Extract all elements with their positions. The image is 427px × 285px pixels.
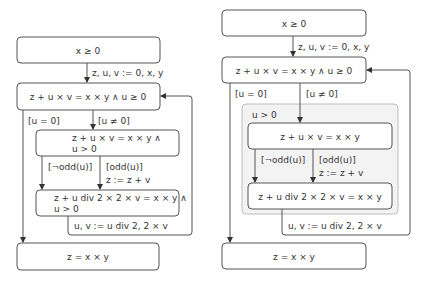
left-body-line2: u > 0	[72, 144, 97, 154]
right-diagram: x ≥ 0 z, u, v := 0, x, y z + u × v = x ×…	[222, 10, 410, 269]
right-odd-assign: z := z + v	[319, 168, 364, 178]
right-guard-exit: [u = 0]	[235, 89, 267, 99]
left-start-text: x ≥ 0	[76, 46, 101, 56]
right-body-text: z + u × v = x × y	[280, 132, 360, 142]
flowcharts: x ≥ 0 z, u, v := 0, x, y z + u × v = x ×…	[0, 0, 427, 285]
right-guard-odd: [odd(u)]	[319, 155, 356, 165]
left-init-label: z, u, v := 0, x, y	[92, 68, 164, 78]
left-guard-even: [¬odd(u)]	[48, 162, 92, 172]
left-after-line1: z + u div 2 × 2 × v = x × y ∧	[54, 193, 187, 203]
left-body-line1: z + u × v = x × y ∧	[72, 133, 161, 143]
right-guard-even: [¬odd(u)]	[261, 155, 305, 165]
right-update-label: u, v := u div 2, 2 × v	[288, 221, 382, 231]
right-after-text: z + u div 2 × 2 × v = x × y	[258, 192, 382, 202]
left-end-text: z = x × y	[67, 252, 110, 262]
left-guard-loop: [u ≠ 0]	[98, 116, 130, 126]
right-invariant-text: z + u × v = x × y ∧ u ≥ 0	[236, 66, 353, 76]
left-odd-assign: z := z + v	[106, 175, 151, 185]
left-after-line2: u > 0	[54, 204, 79, 214]
right-guard-loop: [u ≠ 0]	[306, 89, 338, 99]
left-update-label: u, v := u div 2, 2 × v	[74, 221, 168, 231]
left-guard-exit: [u = 0]	[28, 116, 60, 126]
right-group-label: u > 0	[252, 110, 277, 120]
left-invariant-text: z + u × v = x × y ∧ u ≥ 0	[30, 92, 147, 102]
left-guard-odd: [odd(u)]	[106, 162, 143, 172]
left-diagram: x ≥ 0 z, u, v := 0, x, y z + u × v = x ×…	[17, 37, 192, 270]
right-start-text: x ≥ 0	[282, 19, 307, 29]
right-init-label: z, u, v := 0, x, y	[298, 42, 370, 52]
right-end-text: z = x × y	[273, 252, 316, 262]
